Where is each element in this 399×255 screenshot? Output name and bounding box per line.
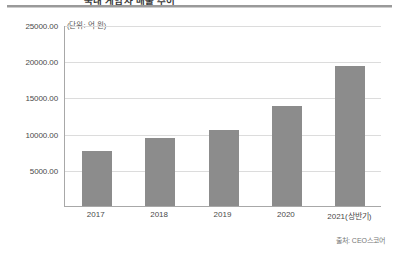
bar [335,66,365,206]
y-axis-tick-label: 10000.00 [25,130,58,139]
x-axis-tick-label: 2020 [277,210,295,219]
y-axis-tick-label: 25000.00 [25,22,58,31]
x-axis-tick-label: 2018 [150,210,168,219]
chart-figure: 국내 게임사 매출 추이 (단위: 억 원) 5000.0010000.0015… [0,0,399,255]
x-axis: 20172018201920202021(상반기) [64,210,381,226]
x-axis-tick-label: 2021(상반기) [327,210,371,221]
x-axis-tick-label: 2019 [214,210,232,219]
gridline [65,62,381,63]
bar [145,138,175,206]
bar [272,106,302,206]
bar [82,151,112,206]
y-axis-tick-label: 15000.00 [25,94,58,103]
bar [209,130,239,206]
title-divider [7,5,392,7]
source-note: 출처: CEO스코어 [336,235,385,245]
y-axis-tick-label: 20000.00 [25,58,58,67]
y-axis-tick-label: 5000.00 [30,166,58,175]
gridline [65,98,381,99]
x-axis-tick-label: 2017 [87,210,105,219]
y-axis: 5000.0010000.0015000.0020000.0025000.00 [0,26,60,207]
gridline [65,26,381,27]
plot-area [64,26,381,207]
